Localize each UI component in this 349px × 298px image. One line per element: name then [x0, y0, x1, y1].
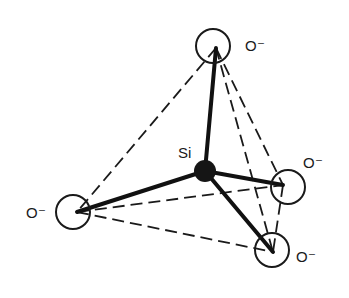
edge-top-left — [77, 48, 216, 212]
oxygen-label-top: O⁻ — [245, 37, 265, 54]
atom-labels: SiO⁻O⁻O⁻O⁻ — [26, 37, 323, 265]
edge-top-bottom — [216, 48, 273, 252]
oxygen-label-left: O⁻ — [26, 204, 46, 221]
silicon-label: Si — [178, 144, 191, 161]
bond-si-top — [205, 48, 216, 171]
oxygen-label-right: O⁻ — [303, 154, 323, 171]
edge-right-bottom — [273, 185, 283, 252]
oxygen-atom-right — [271, 170, 305, 204]
silicon-atom-group — [194, 160, 216, 182]
silicon-atom — [194, 160, 216, 182]
oxygen-atom-left — [56, 195, 90, 229]
edge-left-right — [77, 185, 283, 212]
oxygen-label-bottom: O⁻ — [296, 248, 316, 265]
edge-top-right — [216, 48, 283, 185]
oxygen-atom-top — [196, 29, 230, 63]
bond-si-left — [77, 171, 205, 212]
silicate-tetrahedron-diagram: SiO⁻O⁻O⁻O⁻ — [0, 0, 349, 298]
